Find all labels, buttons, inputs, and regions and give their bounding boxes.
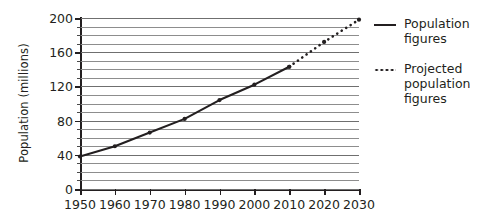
x-tick-label: 1970 [134,197,166,212]
x-tick-label: 2010 [273,197,305,212]
x-tick-label: 1960 [99,197,131,212]
x-tick [254,189,256,195]
y-tick-label: 120 [49,79,73,94]
x-tick-label: 2000 [238,197,270,212]
legend-label: Population figures [404,16,490,46]
x-tick [80,189,82,195]
x-tick [150,189,152,195]
y-tick-label: 160 [49,45,73,60]
legend: Population figuresProjected population f… [374,16,494,121]
data-point [113,144,117,148]
data-point [148,130,152,134]
data-point [322,40,326,44]
legend-entry: Projected population figures [374,61,494,106]
x-tick-label: 1990 [204,197,236,212]
x-tick-label: 1950 [64,197,96,212]
x-tick [220,189,222,195]
x-tick-label: 2020 [308,197,340,212]
solid-line-icon [374,18,396,32]
y-tick-label: 80 [57,113,73,128]
x-tick [115,189,117,195]
y-tick-label: 40 [57,147,73,162]
data-point [357,18,361,22]
data-point [217,98,221,102]
legend-label: Projected population figures [404,61,490,106]
population-line-chart: Population (millions) 04080120160200 195… [0,0,495,223]
x-tick [289,189,291,195]
x-tick-label: 2030 [343,197,375,212]
data-point [287,65,291,69]
legend-entry: Population figures [374,16,494,46]
y-tick-label: 0 [65,182,73,197]
data-point [183,117,187,121]
y-axis-title: Population (millions) [17,13,31,193]
x-tick [324,189,326,195]
data-point [78,154,82,158]
x-tick [185,189,187,195]
x-tick-label: 1980 [169,197,201,212]
data-series-group [80,18,359,189]
plot-area: 04080120160200 1950196019701980199020002… [80,18,359,189]
x-tick [359,189,361,195]
data-point [252,83,256,87]
y-tick-label: 200 [49,11,73,26]
series-line [80,67,289,157]
dotted-line-icon [374,63,396,77]
